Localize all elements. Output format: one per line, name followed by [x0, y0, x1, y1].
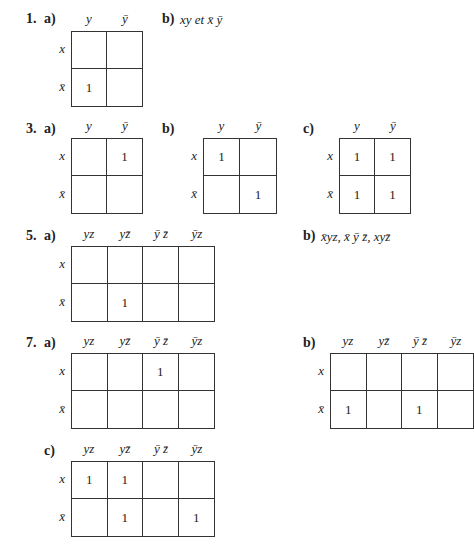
map-cell: 1 [143, 354, 179, 391]
map-cell [143, 247, 179, 284]
part-label: b) [303, 228, 315, 244]
map-cell: 1 [240, 176, 276, 213]
map-cell [438, 354, 474, 391]
map-cell [72, 284, 108, 321]
ex5a-grid: 1 [71, 246, 215, 322]
map-cell [179, 462, 215, 499]
map-cell [143, 284, 179, 321]
ex1a-grid: 1 [71, 31, 143, 107]
exercise-number: 1. [26, 11, 37, 27]
ex7a-row-header: x̄ [51, 401, 65, 417]
ex7c-col-header: yz̄ [107, 441, 143, 457]
part-label: c) [44, 443, 55, 459]
map-cell [107, 69, 142, 106]
map-cell [367, 354, 403, 391]
ex7b-row-header: x [310, 363, 324, 379]
answer-text: x̄yz, x̄ ȳ z̄, xyz̄ [321, 229, 390, 245]
map-cell [179, 354, 215, 391]
map-cell [204, 176, 240, 213]
ex3b-col-header: y [204, 118, 240, 134]
map-cell: 1 [179, 499, 215, 536]
ex3a-grid: 1 [71, 138, 143, 214]
map-cell [240, 139, 276, 176]
map-cell [72, 176, 107, 213]
map-cell [72, 247, 108, 284]
ex7c-col-header: yz [71, 441, 107, 457]
ex7b-grid: 11 [330, 353, 474, 429]
exercise-number: 5. [26, 228, 37, 244]
ex7a-col-header: ȳz [179, 333, 215, 349]
map-cell [179, 391, 215, 428]
part-label: a) [44, 228, 56, 244]
ex1a-row-header: x̄ [51, 79, 65, 95]
ex7a-col-header: yz̄ [107, 333, 143, 349]
ex3a-col-header: y [71, 118, 107, 134]
map-cell [72, 139, 107, 176]
map-cell [438, 391, 474, 428]
map-cell: 1 [107, 139, 142, 176]
ex7c-col-header: ȳ z̄ [143, 441, 179, 457]
part-label: b) [162, 11, 174, 27]
map-cell [72, 391, 108, 428]
map-cell: 1 [331, 391, 367, 428]
map-cell: 1 [108, 499, 144, 536]
map-cell: 1 [72, 462, 108, 499]
ex5a-col-header: ȳ z̄ [143, 226, 179, 242]
map-cell [108, 247, 144, 284]
part-label: a) [44, 121, 56, 137]
ex3c-grid: 1111 [339, 138, 411, 214]
part-label: a) [44, 335, 56, 351]
map-cell [179, 284, 215, 321]
map-cell: 1 [108, 284, 144, 321]
map-cell [108, 354, 144, 391]
ex1a-col-header: y [71, 11, 107, 27]
exercise-number: 3. [26, 121, 37, 137]
map-cell: 1 [108, 462, 144, 499]
ex7c-row-header: x [51, 471, 65, 487]
ex3b-row-header: x̄ [183, 186, 197, 202]
ex3c-col-header: ȳ [375, 118, 411, 134]
part-label: b) [303, 335, 315, 351]
ex5a-col-header: ȳz [179, 226, 215, 242]
map-cell [108, 391, 144, 428]
ex3b-row-header: x [183, 148, 197, 164]
ex7c-grid: 1111 [71, 461, 215, 537]
ex5a-col-header: yz̄ [107, 226, 143, 242]
ex7b-row-header: x̄ [310, 401, 324, 417]
map-cell: 1 [340, 139, 375, 176]
ex5a-row-header: x [51, 256, 65, 272]
map-cell: 1 [72, 69, 107, 106]
map-cell: 1 [340, 176, 375, 213]
exercise-number: 7. [26, 335, 37, 351]
map-cell: 1 [204, 139, 240, 176]
ex5a-row-header: x̄ [51, 294, 65, 310]
ex7b-col-header: yz [330, 333, 366, 349]
map-cell: 1 [375, 139, 410, 176]
map-cell [107, 176, 142, 213]
ex3a-row-header: x̄ [51, 186, 65, 202]
map-cell: 1 [375, 176, 410, 213]
map-cell: 1 [402, 391, 438, 428]
map-cell [402, 354, 438, 391]
map-cell [72, 354, 108, 391]
part-label: a) [44, 11, 56, 27]
ex3a-col-header: ȳ [107, 118, 143, 134]
ex3c-row-header: x [319, 148, 333, 164]
ex1a-col-header: ȳ [107, 11, 143, 27]
ex7b-col-header: yz̄ [366, 333, 402, 349]
map-cell [331, 354, 367, 391]
answer-text: xy et x̄ ȳ [180, 12, 222, 28]
ex7a-col-header: ȳ z̄ [143, 333, 179, 349]
map-cell [179, 247, 215, 284]
ex3b-col-header: ȳ [241, 118, 277, 134]
part-label: c) [303, 121, 314, 137]
map-cell [143, 499, 179, 536]
ex7c-row-header: x̄ [51, 509, 65, 525]
ex1a-row-header: x [51, 41, 65, 57]
map-cell [72, 499, 108, 536]
ex3c-row-header: x̄ [319, 186, 333, 202]
map-cell [72, 32, 107, 69]
ex3a-row-header: x [51, 148, 65, 164]
ex3b-grid: 11 [203, 138, 277, 214]
ex7a-grid: 1 [71, 353, 215, 429]
